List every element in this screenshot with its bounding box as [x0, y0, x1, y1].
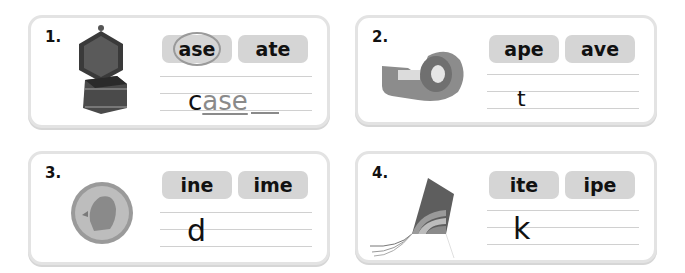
selected-circle-mark	[173, 32, 221, 66]
dime-coin-image	[70, 181, 134, 245]
exercise-number: 1.	[45, 28, 61, 46]
choice-chip-ipe[interactable]: ipe	[565, 171, 635, 199]
writing-line-base	[487, 108, 639, 109]
tape-dispenser-image	[378, 46, 468, 104]
start-letter: t	[517, 86, 526, 111]
writing-line-base	[487, 244, 639, 245]
kite-image	[368, 176, 468, 258]
exercise-card-1: 1. ase ate case	[28, 15, 330, 128]
answer-fill: ase	[202, 86, 247, 116]
writing-line-mid	[487, 91, 639, 92]
choice-chip-ine[interactable]: ine	[162, 171, 232, 199]
choice-chip-ate[interactable]: ate	[238, 35, 308, 63]
choice-chip-ave[interactable]: ave	[565, 35, 635, 63]
answer-field[interactable]: t	[517, 88, 526, 110]
answer-field[interactable]: d	[187, 216, 206, 246]
writing-line-top	[160, 212, 312, 213]
writing-line-top	[487, 210, 639, 211]
exercise-number: 2.	[372, 28, 388, 46]
writing-line-top	[487, 74, 639, 75]
exercise-card-4: 4. ite ipe k	[355, 151, 657, 263]
writing-line-mid	[160, 229, 312, 230]
start-letter: c	[188, 86, 202, 116]
answer-field[interactable]: k	[513, 214, 530, 244]
writing-line-top	[160, 76, 312, 77]
writing-line-base	[160, 246, 312, 247]
start-letter: d	[187, 213, 206, 248]
choice-chip-ime[interactable]: ime	[238, 171, 308, 199]
exercise-card-3: 3. ine ime d	[28, 151, 330, 265]
start-letter: k	[513, 211, 530, 246]
choice-chip-ape[interactable]: ape	[489, 35, 559, 63]
jewelry-box-image	[71, 24, 131, 116]
choice-chip-ite[interactable]: ite	[489, 171, 559, 199]
writing-line-mid	[487, 227, 639, 228]
exercise-card-2: 2. ape ave t	[355, 15, 657, 125]
exercise-number: 3.	[45, 164, 61, 182]
answer-field[interactable]: case	[188, 88, 248, 114]
answer-underline	[251, 112, 279, 114]
